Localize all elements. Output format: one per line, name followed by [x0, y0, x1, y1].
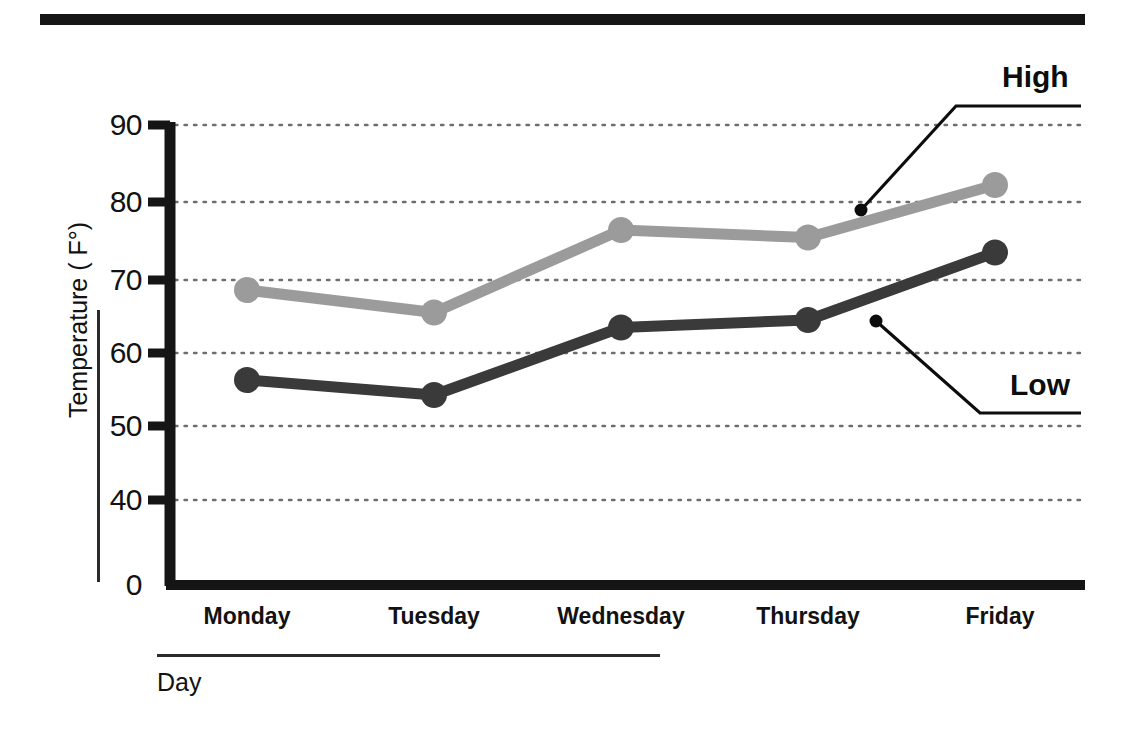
- high-leader: [855, 106, 1082, 217]
- chart-page: 90 80 70 60 50 40 0 Monday Tuesday Wedne…: [0, 0, 1125, 731]
- series-label-low: Low: [1010, 368, 1070, 402]
- series-high-point-wednesday: [608, 217, 634, 243]
- y-axis: [148, 122, 170, 586]
- series-high-point-thursday: [795, 225, 821, 251]
- series-low-point-wednesday: [608, 315, 634, 341]
- x-axis-title-rule: [157, 654, 660, 657]
- series-low-point-thursday: [795, 307, 821, 333]
- y-axis-title-rule: [97, 310, 100, 582]
- low-leader-dot: [870, 315, 883, 328]
- x-axis-title-text: Day: [157, 668, 201, 697]
- series-high-point-tuesday: [421, 300, 447, 326]
- x-tick-label-wednesday: Wednesday: [557, 603, 684, 630]
- y-axis-title: Temperature ( F°): [58, 170, 98, 470]
- x-tick-label-monday: Monday: [204, 603, 291, 630]
- series-high-point-monday: [234, 277, 260, 303]
- y-tick-label-0: 0: [80, 568, 142, 602]
- y-tick-label-40: 40: [80, 483, 142, 517]
- series-low: [234, 240, 1008, 409]
- x-tick-label-friday: Friday: [965, 603, 1034, 630]
- y-tick-label-90: 90: [80, 108, 142, 142]
- x-tick-label-tuesday: Tuesday: [388, 603, 480, 630]
- series-high: [234, 172, 1008, 326]
- x-tick-label-thursday: Thursday: [756, 603, 860, 630]
- series-low-point-tuesday: [421, 382, 447, 408]
- high-leader-dot: [855, 204, 868, 217]
- gridlines: [175, 125, 1085, 500]
- y-axis-title-text: Temperature ( F°): [64, 222, 93, 418]
- series-low-point-friday: [982, 240, 1008, 266]
- series-low-point-monday: [234, 367, 260, 393]
- series-high-point-friday: [982, 172, 1008, 198]
- series-label-high: High: [1002, 60, 1069, 94]
